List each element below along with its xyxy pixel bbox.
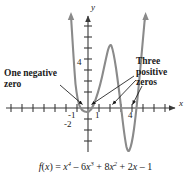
equation-term3-exponent: 2 [114,160,117,167]
equation-op4: – [140,161,145,172]
equation-equals: = [55,161,61,172]
equation-op3: + [120,161,126,172]
annotation-one-negative-zero: One negative zero [4,68,74,89]
plot-canvas [0,0,191,187]
x-tick-label-4: 4 [128,110,133,120]
y-tick-label-4: 4 [77,57,82,67]
equation-term5: 1 [147,161,152,172]
polynomial-curve [71,16,146,151]
curve-right-arrowhead [142,12,148,20]
function-equation: f(x) = x4 – 6x3 + 8x2 + 2x – 1 [0,160,191,172]
equation-op1: – [74,161,79,172]
y-tick-label-neg2: -2 [64,119,72,129]
polynomial-graph-figure: One negative zero Three positive zeros y… [0,0,191,187]
annotation-three-positive-zeros: Three positive zeros [136,56,190,88]
equation-term4-base: x [133,161,137,172]
equation-paren-close: ) [49,161,52,172]
equation-term2-exponent: 3 [91,160,94,167]
x-axis-label: x [179,98,183,108]
equation-op2: + [96,161,102,172]
y-axis-label: y [91,2,95,12]
equation-term1-exponent: 4 [68,160,71,167]
positive-zero-arrow-2 [113,80,137,105]
x-tick-label-1: 1 [95,110,100,120]
curve-left-arrowhead [68,12,74,20]
